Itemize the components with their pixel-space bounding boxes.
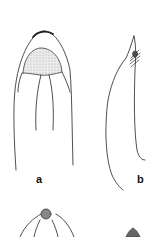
panel-b-drawing xyxy=(106,36,145,190)
panel-label-a: a xyxy=(36,174,42,185)
figure: a b xyxy=(0,0,155,237)
panel-label-b: b xyxy=(137,174,144,185)
panel-a-drawing xyxy=(14,31,73,170)
figure-drawing xyxy=(0,0,155,237)
panel-d-drawing xyxy=(126,228,140,237)
panel-c-drawing xyxy=(20,209,74,237)
